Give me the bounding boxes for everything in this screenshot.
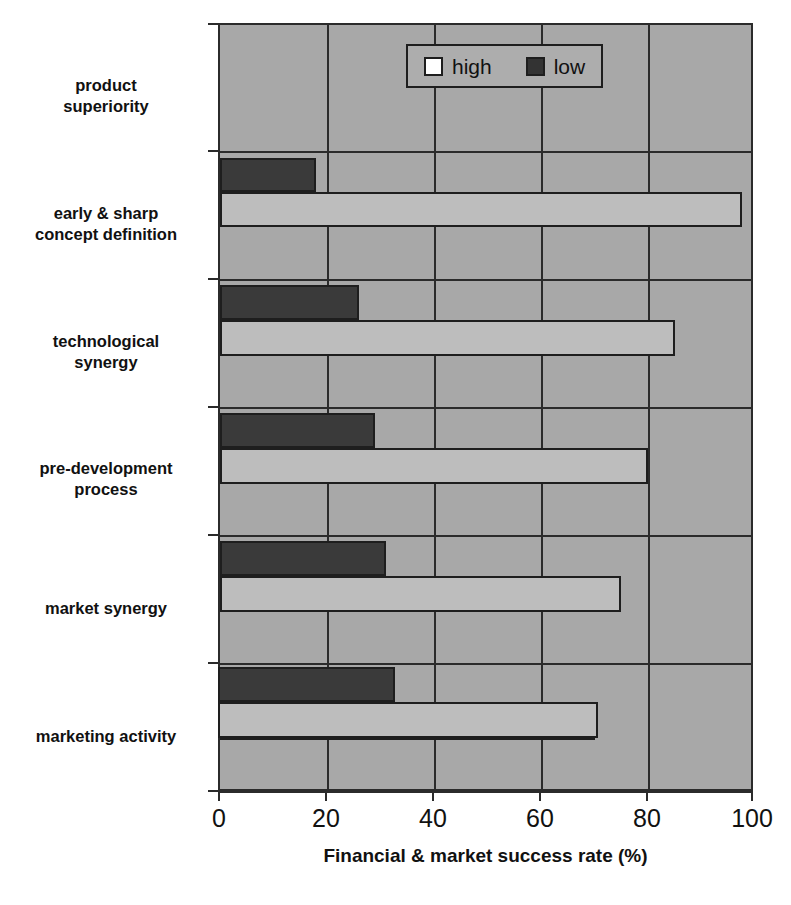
- x-axis-title: Financial & market success rate (%): [218, 845, 753, 867]
- x-axis-tick-20: [325, 791, 327, 801]
- category-label-pre-development-process: pre-development process: [6, 458, 206, 499]
- bar-low-product-superiority: [220, 158, 316, 192]
- category-separator-3: [220, 407, 751, 409]
- bar-high-pre-development-process: [220, 576, 621, 612]
- category-label-market-synergy: market synergy: [6, 598, 206, 619]
- x-axis-tick-80: [646, 791, 648, 801]
- x-axis-tick-label-80: 80: [607, 806, 687, 831]
- bar-low-market-synergy: [220, 669, 386, 704]
- chart-legend: high low: [406, 44, 603, 88]
- x-axis-tick-40: [432, 791, 434, 801]
- category-label-product-superiority: product superiority: [6, 75, 206, 116]
- x-axis-tick-100: [751, 791, 753, 801]
- plot-area: high low: [218, 23, 753, 791]
- category-separator-4: [220, 535, 751, 537]
- x-axis-tick-label-60: 60: [500, 806, 580, 831]
- category-separator-2: [220, 279, 751, 281]
- category-label-marketing-activity: marketing activity: [6, 726, 206, 747]
- category-label-technological-synergy: technological synergy: [6, 331, 206, 372]
- chart-figure: product superiority early & sharp concep…: [0, 0, 791, 905]
- x-axis-line: [218, 791, 753, 793]
- legend-label-high: high: [452, 56, 492, 77]
- legend-swatch-low-icon: [526, 57, 545, 76]
- x-axis-tick-label-40: 40: [393, 806, 473, 831]
- legend-swatch-high-icon: [424, 57, 443, 76]
- legend-entry-low: low: [526, 56, 586, 77]
- legend-entry-high: high: [424, 56, 492, 77]
- bar-high-market-synergy: [220, 704, 595, 740]
- category-label-early-sharp-concept-definition: early & sharp concept definition: [6, 203, 206, 244]
- bar-high-early-sharp-concept-definition: [220, 320, 675, 356]
- bar-low-early-sharp-concept-definition: [220, 285, 359, 320]
- x-axis-tick-0: [218, 791, 220, 801]
- x-axis-tick-label-100: 100: [712, 806, 791, 831]
- category-separator-1: [220, 151, 751, 153]
- legend-label-low: low: [554, 56, 586, 77]
- bar-high-technological-synergy: [220, 448, 648, 484]
- category-separator-5: [220, 663, 751, 665]
- x-axis-tick-60: [539, 791, 541, 801]
- bar-low-pre-development-process: [220, 541, 386, 576]
- x-axis-tick-label-0: 0: [179, 806, 259, 831]
- bar-low-technological-synergy: [220, 413, 375, 448]
- y-axis-category-labels: product superiority early & sharp concep…: [0, 23, 206, 791]
- x-axis-tick-label-20: 20: [286, 806, 366, 831]
- bar-high-product-superiority: [220, 192, 742, 227]
